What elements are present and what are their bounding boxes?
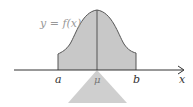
label-a: a (55, 73, 62, 86)
label-mu: μ (94, 74, 101, 85)
normal-distribution-diagram: y = f(x) a μ b x (0, 0, 193, 107)
curve-label: y = f(x) (39, 17, 81, 30)
label-b: b (133, 73, 140, 86)
label-x: x (179, 73, 186, 86)
